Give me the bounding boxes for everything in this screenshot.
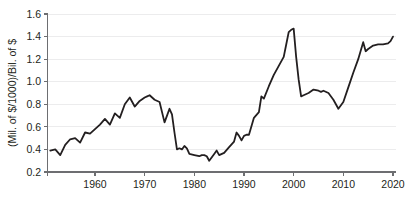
x-axis-tick-label: 1990 <box>232 178 256 190</box>
y-axis-tick-label: 0.2 <box>26 166 41 178</box>
y-axis-tick-label: 0.4 <box>26 143 41 155</box>
x-axis-tick-label: 2010 <box>332 178 356 190</box>
x-axis-tick-label: 2020 <box>381 178 405 190</box>
y-axis-tick-label: 1.4 <box>26 30 41 42</box>
chart-background <box>0 0 413 206</box>
y-axis-tick-label: 0.8 <box>26 98 41 110</box>
x-axis-tick-label: 1980 <box>183 178 207 190</box>
y-axis-tick-label: 1.0 <box>26 75 41 87</box>
y-axis-label: (Mil. of $/1000)/Bil. of $ <box>6 39 18 147</box>
x-axis-tick-label: 2000 <box>282 178 306 190</box>
x-axis-tick-label: 1960 <box>83 178 107 190</box>
line-chart: 0.20.40.60.81.01.21.41.6 196019701980199… <box>0 0 413 206</box>
chart-container: 0.20.40.60.81.01.21.41.6 196019701980199… <box>0 0 413 206</box>
y-axis-tick-label: 0.6 <box>26 121 41 133</box>
y-axis-tick-label: 1.2 <box>26 53 41 65</box>
y-axis-tick-label: 1.6 <box>26 8 41 20</box>
x-axis-tick-label: 1970 <box>133 178 157 190</box>
